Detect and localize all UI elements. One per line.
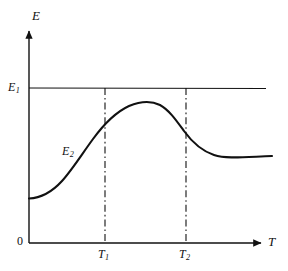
chart-plot-area: [0, 0, 288, 271]
x-tick-label-t1-base: T: [98, 247, 105, 261]
x-tick-label-t2-base: T: [179, 247, 186, 261]
level-label-e1-subscript: 1: [15, 86, 19, 95]
origin-label: 0: [17, 235, 23, 247]
y-axis-label: E: [32, 9, 40, 22]
curve-label-e2: E2: [62, 145, 74, 159]
curve-label-e2-subscript: 2: [69, 150, 73, 159]
x-tick-label-t1-subscript: 1: [105, 253, 109, 262]
level-line-e1: [29, 88, 266, 89]
x-tick-label-t2-subscript: 2: [186, 253, 190, 262]
x-tick-label-t2: T2: [179, 248, 190, 262]
energy-temperature-chart: E T E1 E2 T1 T2 0: [0, 0, 288, 271]
x-tick-label-t1: T1: [98, 248, 109, 262]
x-axis-label: T: [268, 235, 275, 248]
level-label-e1: E1: [8, 81, 20, 95]
